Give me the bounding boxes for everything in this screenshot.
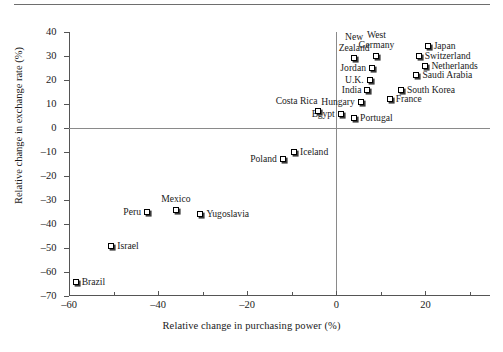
data-point-label: Portugal <box>360 113 393 123</box>
y-tick <box>64 128 69 129</box>
data-point-label: Peru <box>123 207 141 217</box>
data-point-label: Mexico <box>161 193 190 203</box>
y-tick-label: –20 <box>41 171 57 182</box>
x-axis-title: Relative change in purchasing power (%) <box>0 320 503 331</box>
x-tick-major <box>247 291 248 296</box>
y-tick-label: –30 <box>41 195 57 206</box>
data-point-marker <box>73 279 79 285</box>
figure-scatter-purchasing-power-exchange-rate: 403020100–10–20–30–40–50–60–70 –60–40–20… <box>0 0 503 352</box>
y-tick <box>64 176 69 177</box>
x-tick-label: –40 <box>150 299 166 310</box>
y-tick <box>64 56 69 57</box>
x-tick-label: 0 <box>334 299 339 310</box>
y-tick-label: 0 <box>51 123 56 134</box>
y-tick-label: –60 <box>41 267 57 278</box>
data-point-marker <box>173 207 179 213</box>
x-tick-label: –20 <box>239 299 255 310</box>
x-tick-minor <box>470 292 471 296</box>
x-tick-label: 20 <box>420 299 431 310</box>
y-tick <box>64 200 69 201</box>
y-tick-label: –70 <box>41 291 57 302</box>
data-point-label: Yugoslavia <box>206 209 249 219</box>
x-tick-major <box>69 291 70 296</box>
x-tick-minor <box>203 292 204 296</box>
y-tick-label: –50 <box>41 243 57 254</box>
x-tick-minor <box>114 292 115 296</box>
y-tick <box>64 248 69 249</box>
y-tick-label: –40 <box>41 219 57 230</box>
x-tick-major <box>158 291 159 296</box>
zero-vertical-reference-line <box>336 32 337 296</box>
plot-area: 403020100–10–20–30–40–50–60–70 –60–40–20… <box>69 32 490 296</box>
data-point-marker <box>416 53 422 59</box>
y-tick-label: –10 <box>41 147 57 158</box>
data-point-label: Jordan <box>340 63 366 73</box>
y-tick <box>64 104 69 105</box>
x-tick-label: –60 <box>61 299 77 310</box>
data-point-marker <box>351 115 357 121</box>
data-point-marker <box>364 87 370 93</box>
y-tick <box>64 224 69 225</box>
y-axis-line <box>69 32 70 296</box>
data-point-marker <box>108 243 114 249</box>
data-point-label: India <box>342 84 362 94</box>
data-point-marker <box>338 111 344 117</box>
data-point-label: Iceland <box>300 147 328 157</box>
x-tick-minor <box>292 292 293 296</box>
data-point-marker <box>144 209 150 215</box>
y-tick <box>64 152 69 153</box>
y-tick <box>64 32 69 33</box>
data-point-label: Brazil <box>82 276 105 286</box>
data-point-marker <box>413 72 419 78</box>
x-tick-major <box>336 291 337 296</box>
data-point-marker <box>367 77 373 83</box>
header-rule <box>14 4 490 5</box>
data-point-label: Hungary <box>321 96 355 106</box>
data-point-marker <box>398 87 404 93</box>
data-point-marker <box>351 55 357 61</box>
x-axis-line <box>69 295 490 296</box>
data-point-marker <box>422 63 428 69</box>
data-point-marker <box>291 149 297 155</box>
data-point-marker <box>197 211 203 217</box>
data-point-label: NewZealand <box>339 32 370 52</box>
y-tick-label: 40 <box>46 27 57 38</box>
data-point-marker <box>373 53 379 59</box>
y-tick <box>64 272 69 273</box>
y-tick <box>64 80 69 81</box>
data-point-marker <box>280 156 286 162</box>
y-tick-label: 20 <box>46 75 57 86</box>
y-axis-title: Relative change in exchange rate (%) <box>13 0 24 256</box>
data-point-marker <box>369 65 375 71</box>
data-point-label: Israel <box>117 240 138 250</box>
y-tick-label: 10 <box>46 99 57 110</box>
data-point-label: Poland <box>250 154 277 164</box>
data-point-label: France <box>396 94 422 104</box>
x-tick-major <box>425 291 426 296</box>
data-point-marker <box>387 96 393 102</box>
data-point-label: Saudi Arabia <box>422 70 472 80</box>
y-tick-label: 30 <box>46 51 57 62</box>
x-tick-minor <box>381 292 382 296</box>
data-point-label: Costa Rica <box>276 96 318 106</box>
y-tick <box>64 296 69 297</box>
data-point-marker <box>425 43 431 49</box>
zero-horizontal-reference-line <box>69 128 490 129</box>
data-point-marker <box>358 99 364 105</box>
data-point-marker <box>315 108 321 114</box>
